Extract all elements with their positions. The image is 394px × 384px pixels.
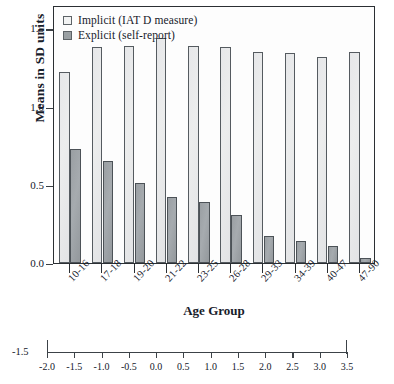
secondary-tick-label: 1.0 [204,361,217,372]
bar-implicit [349,52,360,263]
bar-group [285,53,307,263]
bar-implicit [188,46,199,263]
secondary-tick-label: -1.5 [66,361,82,372]
bar-group [156,38,178,263]
bar-implicit [285,53,296,263]
bar-explicit [135,183,146,263]
secondary-tick-label: -0.5 [121,361,137,372]
bar-group [92,47,114,263]
legend-label-implicit: Implicit (IAT D measure) [78,14,197,26]
bar-implicit [124,46,135,263]
y-tick-line [46,108,53,109]
secondary-tick-line [211,352,212,358]
bar-implicit [253,52,264,263]
bar-group [124,46,146,263]
secondary-tick-line [102,352,103,358]
secondary-tick-label: 0.0 [150,361,163,372]
secondary-tick-line [74,352,75,358]
y-tick-label: 0.5 [14,179,44,191]
bar-implicit [317,57,328,263]
y-tick-label: 1.0 [14,101,44,113]
secondary-tick-line [347,352,348,358]
bars-container [54,7,374,263]
legend-item-explicit: Explicit (self-report) [63,29,197,41]
chart-legend: Implicit (IAT D measure) Explicit (self-… [63,14,197,44]
secondary-tick-label: -2.0 [39,361,55,372]
bar-explicit [167,197,178,263]
bar-explicit [199,202,210,263]
secondary-tick-line [47,352,48,358]
bar-group [220,47,242,263]
secondary-axis-line [47,352,347,353]
secondary-tick-line [156,352,157,358]
legend-swatch-implicit-icon [63,16,72,25]
bar-group [317,57,339,263]
y-tick-label: 0.0 [14,257,44,269]
bar-group [253,52,275,263]
legend-item-implicit: Implicit (IAT D measure) [63,14,197,26]
secondary-axis: -1.5 -2.0-1.5-1.0-0.50.00.51.01.52.02.53… [0,330,394,384]
bar-explicit [70,149,81,263]
secondary-tick-label: 2.5 [286,361,299,372]
bar-implicit [92,47,103,263]
secondary-tick-line [265,352,266,358]
bar-explicit [264,236,275,263]
bar-explicit [296,241,307,263]
secondary-tick-line [320,352,321,358]
legend-swatch-explicit-icon [63,31,72,40]
secondary-tick-label: 0.5 [177,361,190,372]
secondary-tick-line [292,352,293,358]
bar-group [59,72,81,263]
secondary-tick-line [129,352,130,358]
secondary-tick-line [183,352,184,358]
secondary-tick-label: 3.5 [341,361,354,372]
x-axis-title: Age Group [53,303,375,319]
secondary-tick-label: 1.5 [232,361,245,372]
secondary-axis-left-label: -1.5 [12,346,29,357]
bar-implicit [220,47,231,263]
y-tick-line [46,264,53,265]
secondary-tick-label: -1.0 [94,361,110,372]
secondary-tick-label: 3.0 [313,361,326,372]
bar-implicit [156,38,167,263]
y-tick-line [46,186,53,187]
bar-group [188,46,210,263]
plot-area [53,6,375,264]
y-tick-label: 1.5 [14,22,44,34]
secondary-tick-label: 2.0 [259,361,272,372]
y-tick-line [46,29,53,30]
bar-group [349,52,371,263]
secondary-tick-line [238,352,239,358]
bar-implicit [59,72,70,263]
legend-label-explicit: Explicit (self-report) [78,29,175,41]
bar-explicit [103,161,114,263]
bar-explicit [231,215,242,263]
